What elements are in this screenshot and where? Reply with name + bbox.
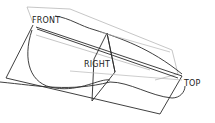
model-viewport[interactable]: FRONT RIGHT TOP: [0, 0, 215, 123]
top-plane[interactable]: [6, 25, 182, 114]
cross-edges: [70, 32, 182, 80]
top-plane-label[interactable]: TOP: [184, 80, 201, 88]
front-plane-label[interactable]: FRONT: [32, 17, 60, 25]
right-plane-label[interactable]: RIGHT: [84, 61, 110, 69]
